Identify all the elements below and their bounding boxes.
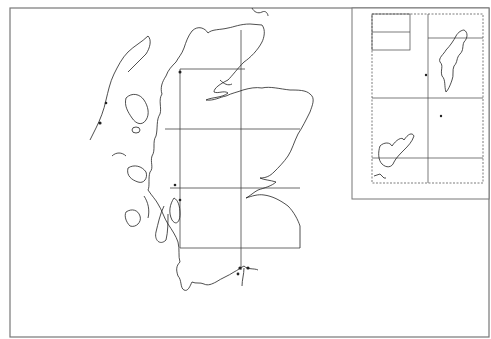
main-grid [165,30,300,270]
inset-map [352,8,489,199]
coast-detail [98,71,249,276]
scotland-map [0,0,491,339]
coastline [90,24,313,290]
orkney-fragment [252,8,268,16]
inset-frame [352,8,489,199]
